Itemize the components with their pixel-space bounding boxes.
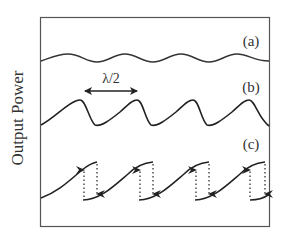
jump-arrows [84,164,265,197]
waveform-c-upper-branch [195,162,265,200]
waveform-c-upper-branch [139,162,209,200]
panel-label-c: (c) [243,136,260,153]
waveform-a [41,54,269,62]
self-mixing-interferometry-diagram: Output Power (a) (b) (c) λ/2 [0,0,283,239]
half-wavelength-label: λ/2 [102,71,120,86]
waveform-c [41,162,268,200]
waveform-c-upper-branch [83,162,153,200]
waveform-b [41,100,269,126]
waveform-c-upper-branch [41,162,97,198]
panel-label-b: (b) [242,79,260,96]
panel-label-a: (a) [243,33,260,50]
y-axis-label: Output Power [8,70,27,165]
waveform-c-lower-tail [250,195,268,200]
